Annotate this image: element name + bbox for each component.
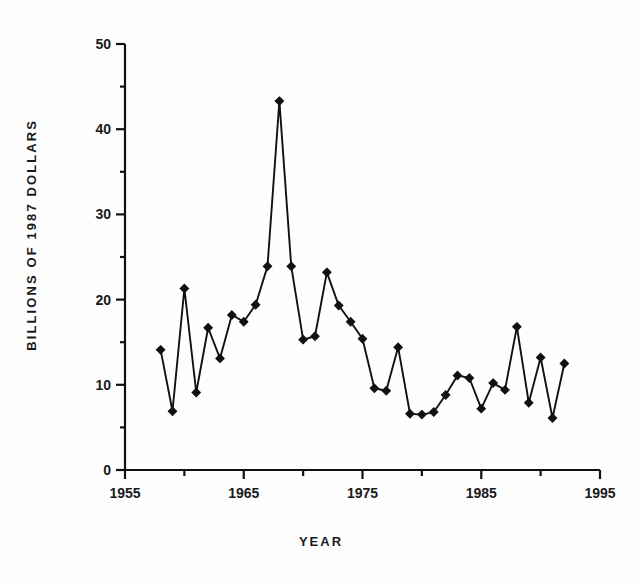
y-axis: 01020304050 [95,36,125,478]
data-point-marker [216,354,224,362]
data-point-marker [382,387,390,395]
data-point-marker [157,346,165,354]
data-point-marker [299,336,307,344]
y-tick-label: 20 [95,292,111,308]
data-point-marker [323,268,331,276]
x-axis-title-text: YEAR [299,534,343,549]
y-tick-label: 40 [95,121,111,137]
data-point-marker [180,284,188,292]
data-point-marker [537,353,545,361]
x-axis-title: YEAR [0,534,642,549]
data-point-marker [406,410,414,418]
data-point-marker [275,97,283,105]
chart-figure: BILLIONS OF 1987 DOLLARS 01020304050 195… [0,0,642,585]
data-point-marker [370,384,378,392]
data-point-marker [489,379,497,387]
y-tick-label: 0 [103,462,111,478]
x-axis: 19551965197519851995 [109,470,615,501]
series-line [161,101,565,418]
y-tick-label: 30 [95,206,111,222]
data-point-marker [560,359,568,367]
x-tick-label: 1955 [109,485,140,501]
x-tick-label: 1995 [584,485,615,501]
x-tick-label: 1985 [466,485,497,501]
data-point-marker [525,399,533,407]
data-point-marker [311,332,319,340]
data-point-marker [228,311,236,319]
data-point-marker [477,405,485,413]
data-point-marker [453,371,461,379]
data-point-marker [204,324,212,332]
data-series [157,97,569,422]
y-tick-label: 50 [95,36,111,52]
x-tick-label: 1975 [347,485,378,501]
data-point-marker [263,262,271,270]
data-point-marker [513,323,521,331]
data-point-marker [501,386,509,394]
data-point-marker [168,407,176,415]
data-point-marker [192,388,200,396]
y-tick-label: 10 [95,377,111,393]
data-point-marker [394,343,402,351]
data-point-marker [465,374,473,382]
x-tick-label: 1965 [228,485,259,501]
data-point-marker [287,262,295,270]
data-point-marker [418,411,426,419]
data-point-marker [548,414,556,422]
plot-area: 01020304050 19551965197519851995 [0,0,642,585]
